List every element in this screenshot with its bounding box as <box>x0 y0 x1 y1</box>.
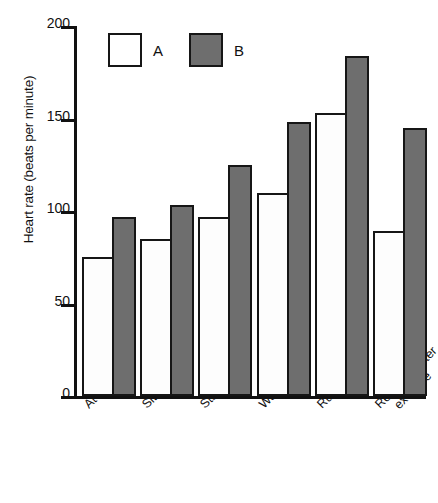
legend-label-b: B <box>234 42 244 59</box>
bar-series-b <box>170 205 194 396</box>
bar-series-a <box>315 113 347 396</box>
legend-item-a: A <box>108 33 163 67</box>
bar-groups <box>77 26 426 396</box>
bar-series-a <box>82 257 114 396</box>
bar-group <box>198 26 252 396</box>
y-tick-label: 150 <box>47 109 70 123</box>
bar-group <box>82 26 136 396</box>
y-tick-label: 200 <box>47 16 70 30</box>
plot-area: 200150100500 <box>74 26 426 399</box>
legend-label-a: A <box>153 42 163 59</box>
bar-group <box>140 26 194 396</box>
bar-series-b <box>287 122 311 396</box>
bar-series-a <box>373 231 405 396</box>
bar-chart: Heart rate (beats per minute) 2001501005… <box>0 0 438 503</box>
y-tick-label: 100 <box>47 201 70 215</box>
y-axis-title: Heart rate (beats per minute) <box>21 60 36 260</box>
bar-series-b <box>345 56 369 396</box>
legend: A B <box>108 33 244 67</box>
bar-series-a <box>140 239 172 396</box>
bar-group <box>315 26 369 396</box>
y-tick-label: 0 <box>62 386 70 400</box>
legend-swatch-a-icon <box>108 33 142 67</box>
bar-series-a <box>198 217 230 396</box>
x-axis-labels: At restSittingStandingWalkingRunningReco… <box>74 402 426 502</box>
bar-series-b <box>112 217 136 396</box>
bar-series-b <box>403 128 427 396</box>
bar-series-a <box>257 193 289 397</box>
bar-group <box>373 26 427 396</box>
legend-swatch-b-icon <box>189 33 223 67</box>
y-tick-label: 50 <box>54 294 70 308</box>
bar-series-b <box>228 165 252 396</box>
bar-group <box>257 26 311 396</box>
legend-item-b: B <box>189 33 244 67</box>
